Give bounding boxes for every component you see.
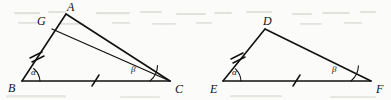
right-triangle-group: E F D α β <box>209 14 384 96</box>
vertex-label-c: C <box>175 82 184 96</box>
side-ed <box>223 29 265 81</box>
angle-label-alpha-b: α <box>31 67 36 77</box>
geometry-figure: B C A G α β <box>0 0 391 100</box>
vertex-label-a: A <box>66 0 75 14</box>
vertex-label-d: D <box>262 14 272 28</box>
vertex-label-e: E <box>209 82 218 96</box>
figure-canvas: B C A G α β <box>0 0 391 100</box>
cevian-gc <box>52 29 170 81</box>
angle-label-beta-f: β <box>331 64 337 74</box>
angle-label-alpha-e: α <box>232 67 237 77</box>
angle-label-beta-c: β <box>130 64 136 74</box>
vertex-label-b: B <box>8 81 16 95</box>
side-ac <box>66 14 170 81</box>
left-triangle-group: B C A G α β <box>8 0 184 96</box>
side-df <box>265 29 371 81</box>
vertex-label-g: G <box>37 14 46 28</box>
vertex-label-f: F <box>375 82 384 96</box>
